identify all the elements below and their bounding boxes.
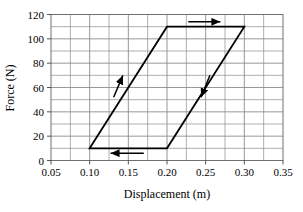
y-axis-tick-labels: 020406080100120 <box>28 9 45 167</box>
y-tick-label: 100 <box>28 33 45 45</box>
y-axis-title: Force (N) <box>3 65 17 112</box>
axis-ticks <box>47 15 283 165</box>
x-tick-label: 0.15 <box>119 166 139 178</box>
x-tick-label: 0.35 <box>273 166 293 178</box>
major-gridlines <box>51 15 283 161</box>
x-axis-tick-labels: 0.050.100.150.200.250.300.35 <box>41 166 293 178</box>
x-tick-label: 0.05 <box>41 166 61 178</box>
y-tick-label: 120 <box>28 9 45 21</box>
hysteresis-chart-figure: 0.050.100.150.200.250.300.35 02040608010… <box>0 0 303 212</box>
y-tick-label: 80 <box>33 57 45 69</box>
y-tick-label: 20 <box>33 130 45 142</box>
chart-canvas: 0.050.100.150.200.250.300.35 02040608010… <box>0 0 303 212</box>
left-leg-direction-arrow <box>114 75 123 97</box>
x-axis-title: Displacement (m) <box>124 187 210 201</box>
x-tick-label: 0.30 <box>235 166 255 178</box>
x-tick-label: 0.25 <box>196 166 216 178</box>
y-tick-label: 0 <box>39 155 45 167</box>
x-tick-label: 0.20 <box>157 166 177 178</box>
y-tick-label: 60 <box>33 82 45 94</box>
x-tick-label: 0.10 <box>80 166 100 178</box>
y-tick-label: 40 <box>33 106 45 118</box>
